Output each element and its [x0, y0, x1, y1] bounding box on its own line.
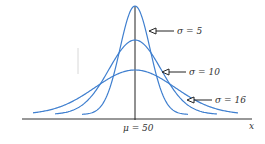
label-mean: μ = 50 — [123, 123, 154, 133]
label-sigma-5: σ = 5 — [177, 26, 202, 36]
label-sigma-10: σ = 10 — [189, 67, 220, 77]
normal-distributions-diagram: σ = 5 σ = 10 σ = 16 μ = 50 x — [0, 0, 265, 144]
label-sigma-16: σ = 16 — [215, 95, 246, 105]
arrow-head-sigma-10 — [162, 69, 169, 75]
label-x-axis: x — [249, 121, 254, 131]
arrow-head-sigma-5 — [149, 28, 156, 34]
